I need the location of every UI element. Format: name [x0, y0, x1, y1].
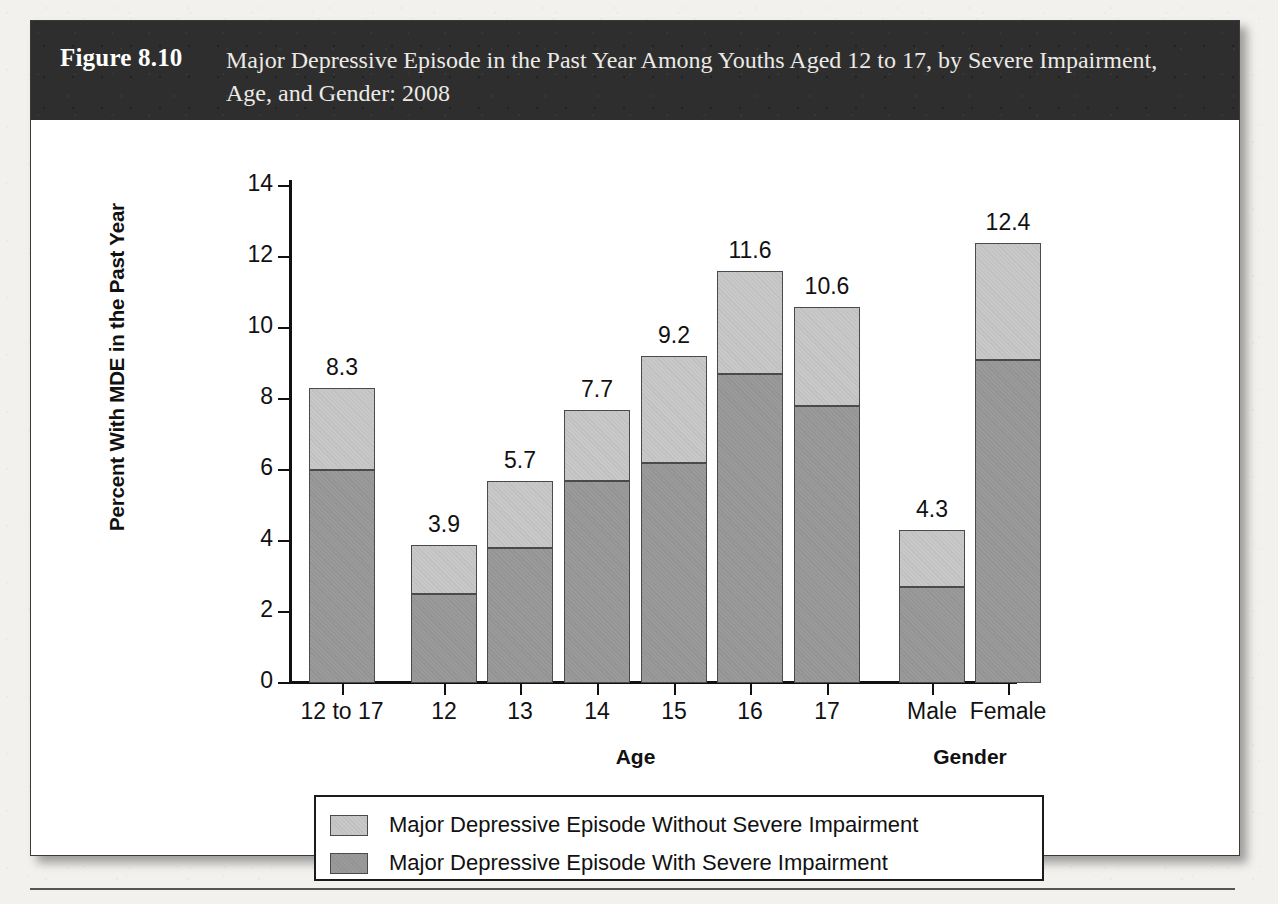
x-axis-group-label-age: Age — [616, 745, 656, 769]
figure-number: Figure 8.10 — [60, 44, 183, 72]
bar-segment-without-severe-impairment — [899, 530, 965, 587]
bar-13[interactable] — [487, 481, 553, 683]
figure-header-band: Figure 8.10 Major Depressive Episode in … — [31, 21, 1239, 120]
x-axis-tick-mark — [750, 684, 752, 695]
bar-value-label: 12.4 — [986, 209, 1031, 236]
chart-plot-area: Percent With MDE in the Past Year 024681… — [31, 120, 1239, 857]
x-axis-group-label-gender: Gender — [933, 745, 1007, 769]
y-axis-tick-mark — [278, 327, 289, 329]
bar-male[interactable] — [899, 530, 965, 683]
bar-16[interactable] — [717, 271, 783, 683]
x-axis-tick-label-15: 15 — [661, 698, 687, 725]
bar-15[interactable] — [641, 356, 707, 683]
bar-segment-without-severe-impairment — [564, 410, 630, 481]
y-axis-title: Percent With MDE in the Past Year — [105, 202, 129, 532]
x-axis-tick-label-male: Male — [907, 698, 957, 725]
x-axis-tick-mark — [520, 684, 522, 695]
bar-segment-with-severe-impairment — [975, 360, 1041, 683]
figure-card: Figure 8.10 Major Depressive Episode in … — [30, 20, 1240, 856]
legend-swatch-icon — [330, 853, 368, 874]
y-axis-tick-mark — [278, 398, 289, 400]
x-axis-tick-mark — [342, 684, 344, 695]
bar-female[interactable] — [975, 243, 1041, 683]
x-axis-tick-label-13: 13 — [507, 698, 533, 725]
y-axis-tick-mark — [278, 611, 289, 613]
y-axis-tick-mark — [278, 469, 289, 471]
y-axis-tick-mark — [278, 540, 289, 542]
bar-segment-with-severe-impairment — [717, 374, 783, 683]
legend-item[interactable]: Major Depressive Episode Without Severe … — [330, 809, 918, 841]
bar-14[interactable] — [564, 410, 630, 683]
y-axis-tick-label: 10 — [229, 312, 273, 339]
bar-segment-with-severe-impairment — [564, 481, 630, 683]
bar-12-to-17[interactable] — [309, 388, 375, 683]
y-axis-tick-label: 8 — [229, 383, 273, 410]
y-axis-tick-label: 14 — [229, 170, 273, 197]
bar-value-label: 4.3 — [916, 496, 948, 523]
page-bottom-rule — [30, 888, 1235, 890]
legend-label: Major Depressive Episode Without Severe … — [389, 812, 918, 838]
chart-legend: Major Depressive Episode Without Severe … — [314, 795, 1044, 881]
bar-segment-without-severe-impairment — [309, 388, 375, 470]
bar-segment-with-severe-impairment — [487, 548, 553, 683]
bar-value-label: 10.6 — [805, 273, 850, 300]
bar-segment-without-severe-impairment — [794, 307, 860, 406]
y-axis-tick-label: 0 — [229, 667, 273, 694]
y-axis-tick-mark — [278, 185, 289, 187]
x-axis-tick-mark — [674, 684, 676, 695]
y-axis-tick-labels: 02468101214 — [211, 120, 273, 857]
bar-17[interactable] — [794, 307, 860, 683]
x-axis-tick-label-12-to-17: 12 to 17 — [300, 698, 383, 725]
y-axis-tick-label: 2 — [229, 596, 273, 623]
bar-value-label: 11.6 — [728, 237, 771, 264]
bar-segment-with-severe-impairment — [794, 406, 860, 683]
bar-segment-without-severe-impairment — [487, 481, 553, 548]
bar-value-label: 8.3 — [326, 354, 358, 381]
bar-segment-without-severe-impairment — [717, 271, 783, 374]
y-axis-tick-mark — [278, 682, 289, 684]
x-axis-tick-label-17: 17 — [814, 698, 840, 725]
bar-value-label: 5.7 — [504, 447, 536, 474]
x-axis-tick-label-female: Female — [970, 698, 1047, 725]
x-axis-tick-label-16: 16 — [737, 698, 763, 725]
bar-segment-with-severe-impairment — [641, 463, 707, 683]
bar-series-container: 8.33.95.77.79.211.610.64.312.4 — [292, 120, 1022, 683]
bar-segment-with-severe-impairment — [411, 594, 477, 683]
bar-segment-with-severe-impairment — [309, 470, 375, 683]
x-axis-tick-mark — [597, 684, 599, 695]
y-axis-tick-label: 6 — [229, 454, 273, 481]
bar-12[interactable] — [411, 545, 477, 683]
x-axis-tick-mark — [932, 684, 934, 695]
bar-segment-without-severe-impairment — [975, 243, 1041, 360]
bar-value-label: 9.2 — [658, 322, 690, 349]
legend-swatch-icon — [330, 815, 368, 836]
x-axis-tick-mark — [827, 684, 829, 695]
x-axis-tick-mark — [444, 684, 446, 695]
y-axis-tick-label: 4 — [229, 525, 273, 552]
legend-item[interactable]: Major Depressive Episode With Severe Imp… — [330, 847, 888, 879]
bar-value-label: 7.7 — [581, 376, 613, 403]
y-axis-tick-label: 12 — [229, 241, 273, 268]
y-axis-tick-mark — [278, 256, 289, 258]
bar-value-label: 3.9 — [428, 511, 460, 538]
x-axis-tick-label-14: 14 — [584, 698, 610, 725]
bar-segment-without-severe-impairment — [641, 356, 707, 463]
bar-segment-with-severe-impairment — [899, 587, 965, 683]
x-axis-tick-mark — [1008, 684, 1010, 695]
x-axis-tick-label-12: 12 — [431, 698, 457, 725]
legend-label: Major Depressive Episode With Severe Imp… — [389, 850, 888, 876]
figure-caption: Major Depressive Episode in the Past Yea… — [226, 44, 1201, 110]
bar-segment-without-severe-impairment — [411, 545, 477, 595]
